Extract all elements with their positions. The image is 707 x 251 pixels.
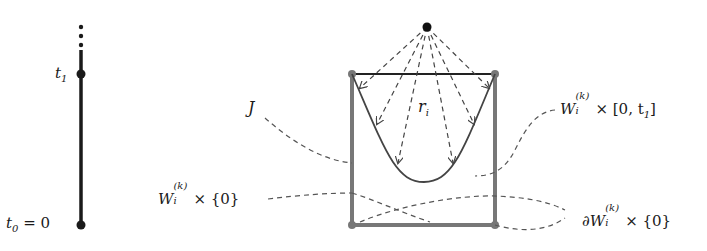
ray-line (427, 27, 453, 163)
label-t1: t1 (55, 66, 67, 84)
ray-line (427, 27, 474, 124)
r-subscript: i (426, 107, 429, 118)
W-bottom-base: W (158, 190, 173, 208)
label-W-top: W(k)i× [0, t1] (560, 100, 656, 120)
rays-r-i (360, 27, 489, 163)
label-dW: ∂W(k)i× {0} (582, 212, 671, 229)
apex-point-icon (423, 23, 432, 32)
t0-equals-zero: = 0 (18, 214, 50, 232)
domain-box (348, 70, 499, 229)
W-bottom-superscript: (k) (173, 181, 187, 191)
label-r-i: ri (418, 99, 429, 118)
t1-subscript: 1 (61, 73, 67, 84)
ray-line (398, 27, 427, 163)
t1-point-icon (77, 70, 86, 79)
W-top-interval: × [0, t (595, 100, 643, 118)
t0-point-icon (77, 221, 86, 230)
diagram-figure: t1 t0 = 0 J ri W(k)i× [0, t1] W(k)i× {0}… (0, 0, 707, 251)
W-top-base: W (560, 100, 575, 118)
W-top-subscript: i (575, 106, 578, 116)
leader-lines (265, 110, 565, 230)
leader-dW-lower (495, 218, 565, 230)
continuation-dot-icon (79, 43, 83, 47)
W-bottom-set: × {0} (193, 190, 239, 208)
leader-J (265, 118, 352, 163)
dW-set: × {0} (625, 212, 671, 230)
leader-W-bottom (268, 193, 352, 199)
label-J: J (248, 100, 254, 116)
continuation-dot-icon (79, 25, 83, 29)
W-bottom-subscript: i (173, 196, 176, 206)
W-top-close: ] (650, 100, 656, 118)
timeline (77, 25, 86, 230)
dW-superscript: (k) (605, 203, 619, 213)
leader-dW-upper (360, 196, 565, 222)
ray-line (427, 27, 489, 88)
W-top-superscript: (k) (575, 91, 589, 101)
r-base: r (418, 97, 426, 116)
label-t0: t0 = 0 (6, 216, 50, 234)
dW-subscript: i (605, 218, 608, 228)
label-W-bottom: W(k)i× {0} (158, 190, 239, 207)
curve-J (352, 74, 495, 182)
leader-W-bottom-inner (352, 193, 430, 222)
ray-line (360, 27, 427, 88)
dW-base: ∂W (582, 212, 605, 230)
continuation-dot-icon (79, 34, 83, 38)
corner-dot-icon (348, 221, 356, 229)
leader-W-top (475, 110, 555, 176)
